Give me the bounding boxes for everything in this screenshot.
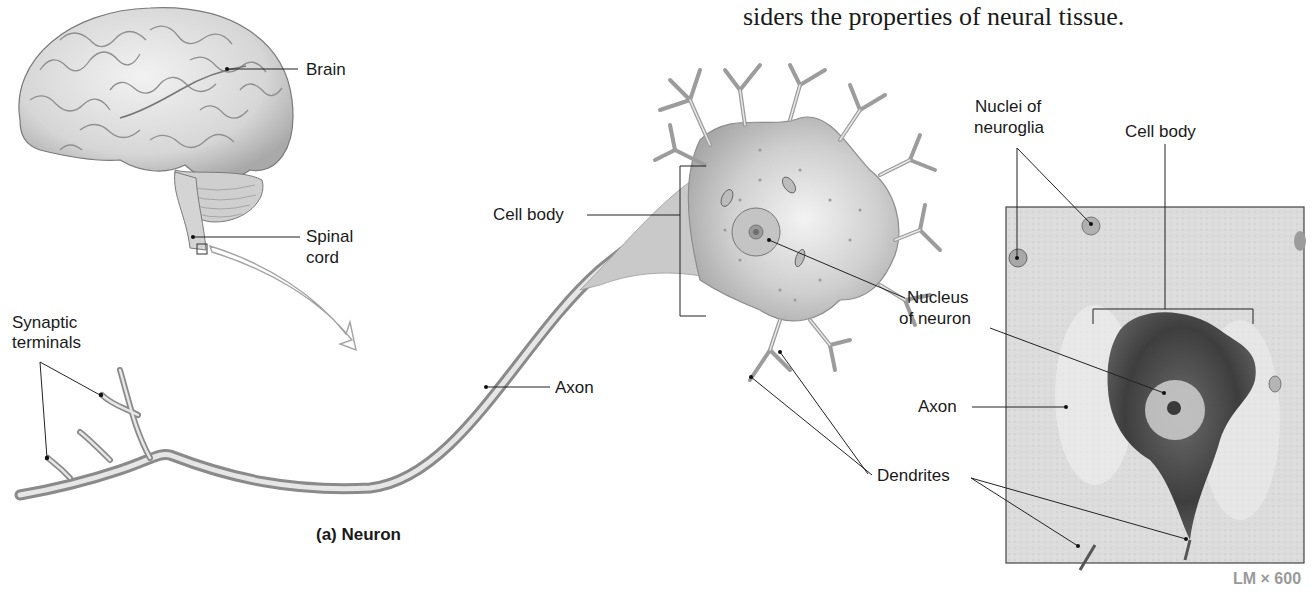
label-micrograph-axon: Axon — [918, 397, 957, 417]
panel-subtitle-neuron: (a) Neuron — [316, 525, 401, 545]
label-nuclei-of-neuroglia-line2: neuroglia — [974, 118, 1044, 138]
label-nucleus-line1: Nucleus — [907, 288, 968, 308]
neural-tissue-figure — [0, 0, 1316, 596]
label-nucleus-line2: of neuron — [899, 309, 971, 329]
body-text-fragment: siders the properties of neural tissue. — [743, 2, 1124, 32]
light-micrograph — [971, 135, 1306, 570]
label-nuclei-of-neuroglia-line1: Nuclei of — [975, 97, 1041, 117]
label-dendrites: Dendrites — [877, 466, 950, 486]
label-synaptic-terminals-line2: terminals — [12, 333, 81, 353]
magnification-label: LM × 600 — [1233, 570, 1301, 588]
label-spinal-cord-line1: Spinal — [306, 227, 353, 247]
label-synaptic-terminals-line1: Synaptic — [12, 313, 77, 333]
label-spinal-cord-line2: cord — [306, 248, 339, 268]
label-micrograph-cell-body: Cell body — [1125, 122, 1196, 142]
label-cell-body: Cell body — [493, 205, 564, 225]
label-axon: Axon — [555, 378, 594, 398]
label-brain: Brain — [306, 60, 346, 80]
